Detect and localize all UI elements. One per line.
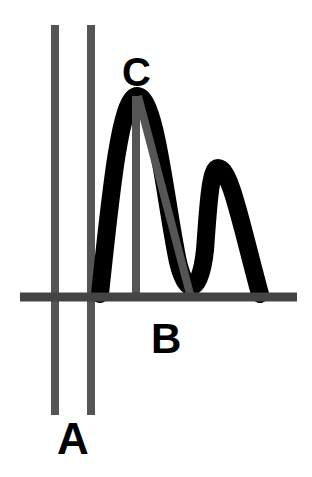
- label-a: A: [57, 417, 89, 461]
- label-c: C: [122, 52, 151, 92]
- peak-diagonal-line: [138, 96, 190, 294]
- diagram-canvas: C B A: [0, 0, 312, 477]
- label-b: B: [151, 318, 181, 360]
- diagram-svg: [0, 0, 312, 477]
